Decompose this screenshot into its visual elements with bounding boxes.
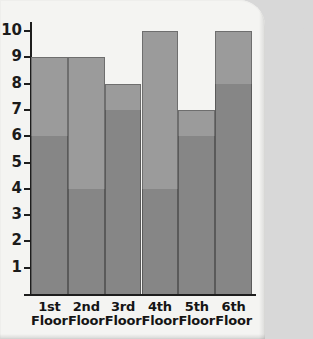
- y-axis-tick-mark: [24, 240, 31, 242]
- y-axis-tick-mark: [24, 188, 31, 190]
- bar-1: [31, 57, 68, 294]
- x-axis-label-line1: 6th: [222, 299, 246, 314]
- bar-segment-upper: [215, 31, 252, 84]
- y-axis-tick-label: 9: [0, 49, 22, 64]
- bar-segment-upper: [178, 110, 215, 136]
- x-axis-label-line1: 3rd: [111, 299, 135, 314]
- page-edge-shadow-right: [259, 0, 265, 339]
- stacked-bar-chart: 12345678910 1stFloor2ndFloor3rdFloor4thF…: [0, 0, 265, 339]
- bar-2: [68, 57, 105, 294]
- bar-segment-upper: [31, 57, 68, 136]
- bar-5: [178, 110, 215, 294]
- y-axis-tick-mark: [24, 214, 31, 216]
- bar-segment-lower: [178, 136, 215, 294]
- bar-segment-lower: [142, 189, 179, 294]
- x-axis-label-line1: 1st: [38, 299, 60, 314]
- bar-segment-lower: [215, 84, 252, 294]
- x-axis-label-line1: 4th: [148, 299, 172, 314]
- bar-3: [105, 84, 142, 294]
- y-axis-tick-label: 10: [0, 23, 22, 38]
- y-axis-tick-mark: [24, 162, 31, 164]
- y-axis-tick-mark: [24, 267, 31, 269]
- y-axis-tick-mark: [24, 56, 31, 58]
- y-axis-tick-label: 1: [0, 260, 22, 275]
- x-axis-label-line1: 5th: [185, 299, 209, 314]
- x-axis-line: [24, 294, 256, 296]
- y-axis-tick-label: 5: [0, 155, 22, 170]
- bar-segment-lower: [68, 189, 105, 294]
- y-axis-tick-label: 7: [0, 102, 22, 117]
- bar-segment-upper: [142, 31, 179, 189]
- x-axis-label-line2: Floor: [211, 314, 256, 328]
- y-axis-tick-label: 8: [0, 76, 22, 91]
- y-axis-tick-mark: [24, 83, 31, 85]
- bar-4: [142, 31, 179, 294]
- bar-segment-upper: [68, 57, 105, 189]
- y-axis-tick-label: 4: [0, 181, 22, 196]
- x-axis-label-6: 6thFloor: [211, 300, 256, 327]
- y-axis-tick-label: 3: [0, 207, 22, 222]
- y-axis-tick-mark: [24, 109, 31, 111]
- bar-segment-upper: [105, 84, 142, 110]
- bar-segment-lower: [105, 110, 142, 294]
- x-axis-label-line1: 2nd: [73, 299, 100, 314]
- page-edge-shadow-bottom: [0, 334, 265, 339]
- y-axis-tick-label: 2: [0, 233, 22, 248]
- y-axis-tick-mark: [24, 30, 31, 32]
- bar-6: [215, 31, 252, 294]
- y-axis-tick-label: 6: [0, 128, 22, 143]
- bar-segment-lower: [31, 136, 68, 294]
- y-axis-tick-mark: [24, 135, 31, 137]
- scanned-page-sheet: 12345678910 1stFloor2ndFloor3rdFloor4thF…: [0, 0, 265, 339]
